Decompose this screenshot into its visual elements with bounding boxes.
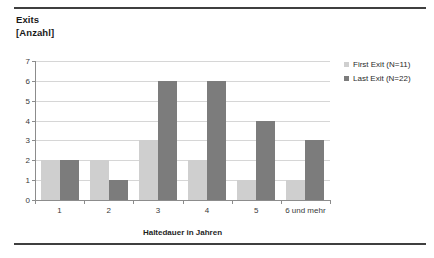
bar-last-exit bbox=[207, 81, 226, 200]
y-axis-tick-label: 6 bbox=[8, 76, 30, 85]
y-axis-tick-label: 7 bbox=[8, 57, 30, 66]
bar-group bbox=[183, 61, 232, 200]
chart-title: Exits [Anzahl] bbox=[16, 14, 54, 39]
y-axis-tick-mark bbox=[32, 101, 35, 102]
bar-first-exit bbox=[237, 180, 256, 200]
top-divider-rule bbox=[14, 7, 426, 9]
legend-swatch-first-exit bbox=[344, 62, 349, 67]
bar-first-exit bbox=[41, 160, 60, 200]
y-axis-line bbox=[35, 61, 36, 201]
chart-legend: First Exit (N=11)Last Exit (N=22) bbox=[344, 57, 434, 85]
bar-first-exit bbox=[286, 180, 305, 200]
x-axis-tick-mark bbox=[35, 201, 36, 204]
bottom-divider-rule bbox=[14, 243, 426, 245]
x-axis-title: Haltedauer in Jahren bbox=[35, 228, 330, 237]
legend-item-label: Last Exit (N=22) bbox=[353, 74, 411, 83]
chart-title-line-2: [Anzahl] bbox=[16, 27, 54, 40]
bar-first-exit bbox=[139, 140, 158, 200]
x-axis-tick-label: 6 und mehr bbox=[281, 206, 330, 215]
y-axis-tick-label: 3 bbox=[8, 136, 30, 145]
y-axis-tick-label: 5 bbox=[8, 96, 30, 105]
bar-group bbox=[133, 61, 182, 200]
x-axis-tick-mark bbox=[133, 201, 134, 204]
y-axis-tick-mark bbox=[32, 140, 35, 141]
bar-group bbox=[35, 61, 84, 200]
chart-screenshot: Exits [Anzahl] 76543210 123456 und mehr … bbox=[0, 0, 434, 258]
x-axis-tick-mark bbox=[281, 201, 282, 204]
x-axis-tick-mark bbox=[232, 201, 233, 204]
y-axis-tick-mark bbox=[32, 61, 35, 62]
x-axis-tick-label: 4 bbox=[182, 206, 231, 215]
bar-last-exit bbox=[158, 81, 177, 200]
x-axis-tick-label: 3 bbox=[133, 206, 182, 215]
y-axis-tick-label: 2 bbox=[8, 156, 30, 165]
bar-group bbox=[84, 61, 133, 200]
legend-item[interactable]: Last Exit (N=22) bbox=[344, 71, 434, 85]
legend-item-label: First Exit (N=11) bbox=[353, 60, 410, 69]
x-axis-tick-label: 2 bbox=[84, 206, 133, 215]
y-axis-tick-label: 4 bbox=[8, 116, 30, 125]
y-axis-tick-label: 0 bbox=[8, 196, 30, 205]
y-axis-tick-mark bbox=[32, 81, 35, 82]
bar-last-exit bbox=[60, 160, 79, 200]
y-axis-labels: 76543210 bbox=[6, 61, 30, 200]
plot-area bbox=[35, 61, 330, 200]
x-axis-tick-mark bbox=[183, 201, 184, 204]
x-axis-tick-label: 1 bbox=[35, 206, 84, 215]
bar-first-exit bbox=[188, 160, 207, 200]
y-axis-tick-label: 1 bbox=[8, 176, 30, 185]
bar-groups bbox=[35, 61, 330, 200]
legend-item[interactable]: First Exit (N=11) bbox=[344, 57, 434, 71]
x-axis-labels: 123456 und mehr bbox=[35, 206, 330, 215]
bar-first-exit bbox=[90, 160, 109, 200]
y-axis-tick-mark bbox=[32, 180, 35, 181]
x-axis-tick-mark bbox=[330, 201, 331, 204]
x-axis-tick-label: 5 bbox=[232, 206, 281, 215]
y-axis-tick-mark bbox=[32, 160, 35, 161]
bar-last-exit bbox=[305, 140, 324, 200]
bar-group bbox=[281, 61, 330, 200]
bar-group bbox=[232, 61, 281, 200]
x-axis-tick-mark bbox=[84, 201, 85, 204]
chart-title-line-1: Exits bbox=[16, 14, 54, 27]
bar-last-exit bbox=[109, 180, 128, 200]
bar-last-exit bbox=[256, 121, 275, 200]
y-axis-tick-mark bbox=[32, 121, 35, 122]
legend-swatch-last-exit bbox=[344, 76, 349, 81]
